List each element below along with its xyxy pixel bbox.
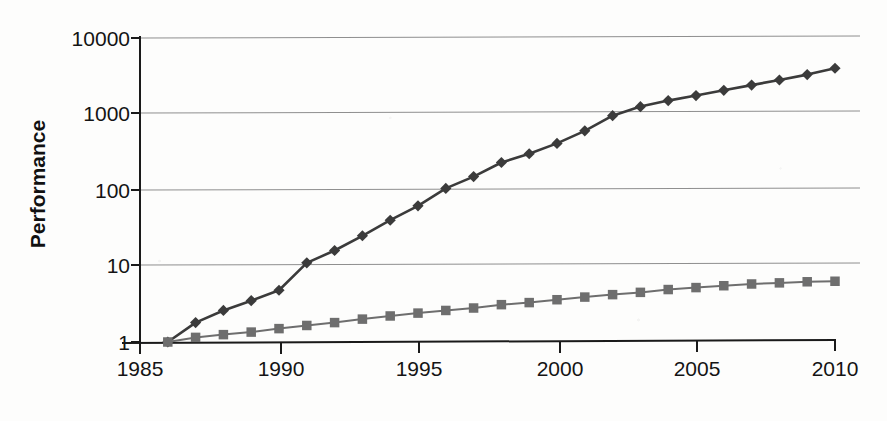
x-tick-label-2010: 2010 [790,357,880,381]
x-tick-label-1985: 1985 [95,357,185,381]
data-point-marker [746,80,757,91]
data-point-marker [441,306,451,316]
data-point-marker [329,245,340,256]
data-point-marker [608,290,618,300]
data-point-marker [830,277,840,287]
data-point-marker [218,305,229,316]
data-point-marker [330,318,340,328]
data-point-marker [690,90,701,101]
data-point-marker [274,324,284,334]
data-point-marker [580,292,590,302]
data-point-marker [246,295,257,306]
data-point-marker [635,101,646,112]
data-point-marker [468,171,479,182]
data-point-marker [496,157,507,168]
data-point-marker [413,308,423,318]
data-point-marker [663,95,674,106]
data-point-marker [718,85,729,96]
data-point-marker [497,300,507,310]
data-point-marker [551,138,562,149]
x-axis [122,340,836,354]
x-tick-label-2005: 2005 [652,357,742,381]
data-point-marker [524,148,535,159]
series-square [163,277,840,347]
data-point-marker [191,333,201,343]
data-point-marker [691,283,701,293]
data-series-layer [162,63,840,348]
data-point-marker [385,311,395,321]
data-point-marker [636,288,646,298]
data-point-marker [524,298,534,308]
data-point-marker [219,330,229,340]
data-point-marker [829,63,840,74]
x-tick-label-2000: 2000 [515,357,605,381]
data-point-marker [552,295,562,305]
data-point-marker [246,327,256,337]
data-point-marker [747,279,757,289]
data-point-marker [163,337,173,347]
performance-log-chart: Performance 10000 1000 100 10 1 [0,0,887,421]
x-axis-tick-labels: 1985 1990 1995 2000 2005 2010 [0,357,887,397]
data-point-marker [385,215,396,226]
data-point-marker [302,321,312,331]
data-point-marker [802,69,813,80]
x-tick-label-1990: 1990 [236,357,326,381]
y-axis [131,36,140,343]
data-point-marker [774,74,785,85]
data-point-marker [357,230,368,241]
x-tick-label-1995: 1995 [374,357,464,381]
gridlines [140,36,860,265]
data-point-marker [358,314,368,324]
data-point-marker [579,125,590,136]
data-point-marker [663,285,673,295]
data-point-marker [719,281,729,291]
data-point-marker [469,303,479,313]
series-line [168,281,835,342]
data-point-marker [802,277,812,287]
data-point-marker [775,278,785,288]
